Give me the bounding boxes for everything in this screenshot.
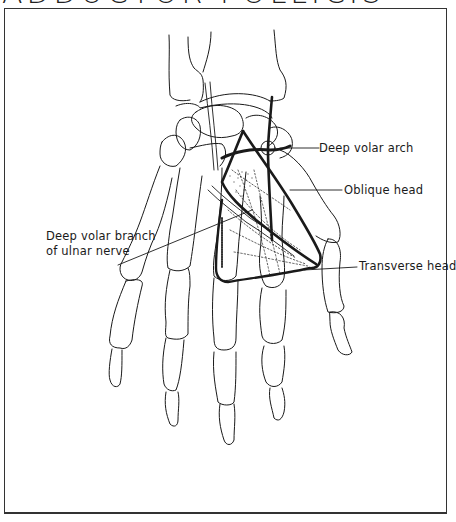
label-deep-volar-branch-line2: of ulnar nerve bbox=[46, 244, 130, 259]
forearm-bones bbox=[169, 30, 286, 102]
label-transverse-head: Transverse head bbox=[359, 259, 456, 274]
middle-finger-bones bbox=[213, 168, 247, 445]
ring-finger-bones bbox=[163, 168, 202, 426]
label-oblique-head: Oblique head bbox=[344, 183, 423, 198]
label-deep-volar-branch-line1: Deep volar branch bbox=[46, 229, 156, 244]
label-deep-volar-arch: Deep volar arch bbox=[319, 141, 414, 156]
thumb-bones bbox=[280, 150, 352, 355]
leader-lines bbox=[118, 148, 357, 270]
little-finger-bones bbox=[109, 166, 172, 387]
